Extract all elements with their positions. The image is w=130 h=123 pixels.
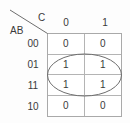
column-header-1: 1	[95, 17, 115, 28]
kmap-cell: 0	[48, 96, 85, 117]
karnaugh-map-diagram: C AB 0 1 00 01 11 10 0 0 1 1 1 1 0 0	[0, 0, 130, 123]
row-header-10: 10	[22, 101, 44, 112]
row-header-00: 00	[22, 38, 44, 49]
column-header-0: 0	[56, 17, 76, 28]
kmap-cell: 1	[48, 55, 85, 76]
column-variable-label: C	[38, 13, 45, 23]
kmap-cell: 1	[85, 55, 122, 76]
kmap-cell: 1	[85, 75, 122, 96]
row-variable-label: AB	[10, 26, 23, 36]
kmap-grid: 0 0 1 1 1 1 0 0	[47, 33, 122, 117]
row-header-11: 11	[22, 80, 44, 91]
kmap-cell: 0	[85, 96, 122, 117]
kmap-cell: 0	[85, 34, 122, 55]
kmap-cell: 0	[48, 34, 85, 55]
kmap-cell: 1	[48, 75, 85, 96]
row-header-01: 01	[22, 59, 44, 70]
